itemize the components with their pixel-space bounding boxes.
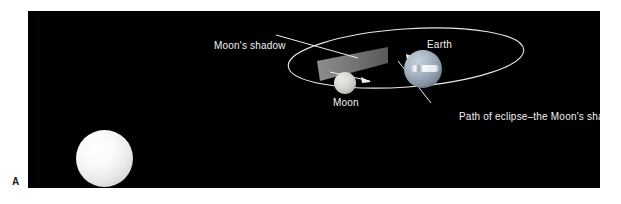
label-eclipse-path-caption: Path of eclipse–the Moon's shadow	[459, 111, 600, 122]
label-moons-shadow: Moon's shadow	[214, 40, 286, 51]
panel-letter-label: A	[12, 176, 19, 187]
diagram-panel: Moon's shadow Earth Moon Path of eclipse…	[28, 11, 600, 188]
leader-line-moons-shadow	[276, 35, 358, 58]
eclipse-diagram-figure: Moon's shadow Earth Moon Path of eclipse…	[0, 0, 621, 204]
moon-sphere	[334, 72, 356, 94]
sun-sphere	[76, 130, 133, 187]
eclipse-path-marking	[411, 65, 439, 72]
orbit-direction-arrowhead	[361, 77, 371, 83]
label-earth: Earth	[427, 39, 452, 50]
label-moon: Moon	[333, 97, 359, 108]
